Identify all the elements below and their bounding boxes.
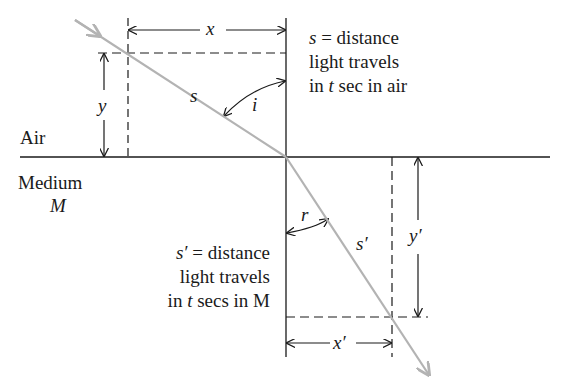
region-medium-m-label: M: [50, 194, 66, 217]
incident-ray-arrow-icon: [75, 20, 100, 36]
label-y-prime: y′: [409, 224, 422, 247]
label-i: i: [252, 93, 257, 116]
label-y: y: [98, 94, 106, 117]
region-air-label: Air: [20, 126, 45, 149]
air-note-line3-pre: in: [309, 75, 329, 96]
air-note-line3-post: sec in air: [334, 75, 407, 96]
label-x: x: [206, 17, 214, 40]
label-r: r: [301, 203, 308, 226]
label-s-prime: s′: [356, 232, 368, 255]
medium-note-line2: light travels: [130, 265, 270, 289]
air-note-line1: = distance: [316, 27, 398, 48]
refraction-diagram: [0, 0, 561, 389]
medium-note-line3-pre: in: [168, 290, 188, 311]
air-distance-note: s = distance light travels in t sec in a…: [309, 26, 407, 98]
region-medium-label: Medium: [18, 171, 82, 194]
medium-distance-note: s′ = distance light travels in t secs in…: [130, 241, 270, 313]
air-note-line2: light travels: [309, 50, 407, 74]
label-x-prime: x′: [333, 331, 346, 354]
medium-note-var: s′: [176, 242, 188, 263]
label-s: s: [190, 84, 197, 107]
medium-note-line1: = distance: [188, 242, 270, 263]
refracted-ray: [286, 157, 429, 375]
incident-ray: [75, 20, 286, 157]
medium-note-line3-post: secs in M: [192, 290, 270, 311]
